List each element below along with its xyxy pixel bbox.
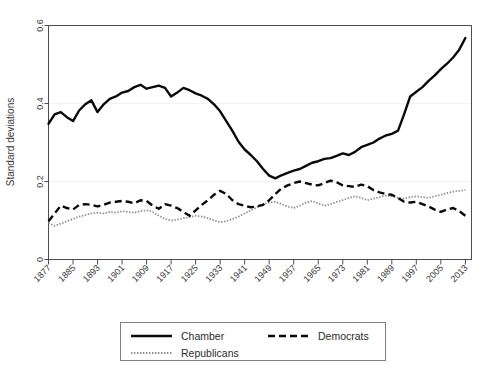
- y-tick-label: 0.6: [35, 19, 45, 32]
- x-tick-label: 2013: [449, 263, 470, 284]
- plot-gridlines: [49, 26, 472, 260]
- y-tick-label: 0: [35, 257, 45, 262]
- legend-label-chamber: Chamber: [181, 330, 225, 342]
- x-tick-label: 1973: [326, 263, 347, 284]
- series-line-republicans: [49, 190, 466, 226]
- legend: Chamber Democrats Republicans: [121, 323, 386, 361]
- x-tick-label: 2005: [424, 263, 445, 284]
- x-tick-label: 1941: [228, 263, 249, 284]
- y-axis: 00.20.40.6 Standard deviations: [5, 19, 49, 262]
- x-axis: 1877188518931901190919171925193319411949…: [32, 260, 472, 285]
- line-chart-svg: 00.20.40.6 Standard deviations 187718851…: [0, 0, 491, 368]
- x-tick-label: 1997: [400, 263, 421, 284]
- chart-figure: 00.20.40.6 Standard deviations 187718851…: [0, 0, 491, 368]
- x-tick-label: 1981: [350, 263, 371, 284]
- x-tick-label: 1909: [130, 263, 151, 284]
- x-tick-label: 1949: [252, 263, 273, 284]
- x-tick-label: 1893: [81, 263, 102, 284]
- series-line-democrats: [49, 181, 466, 222]
- x-tick-label: 1885: [56, 263, 77, 284]
- x-tick-label: 1965: [301, 263, 322, 284]
- y-tick-label: 0.2: [35, 175, 45, 188]
- x-tick-label: 1989: [375, 263, 396, 284]
- x-tick-label: 1957: [277, 263, 298, 284]
- x-tick-label: 1925: [179, 263, 200, 284]
- x-tick-label: 1933: [203, 263, 224, 284]
- y-axis-title: Standard deviations: [5, 98, 16, 186]
- series-line-chamber: [49, 38, 466, 178]
- data-series-group: [49, 38, 466, 226]
- legend-label-republicans: Republicans: [181, 347, 239, 359]
- legend-label-democrats: Democrats: [318, 330, 369, 342]
- x-tick-label: 1877: [32, 263, 53, 284]
- y-tick-label: 0.4: [35, 97, 45, 110]
- x-tick-label: 1917: [154, 263, 175, 284]
- x-tick-label: 1901: [105, 263, 126, 284]
- plot-frame: [49, 26, 472, 260]
